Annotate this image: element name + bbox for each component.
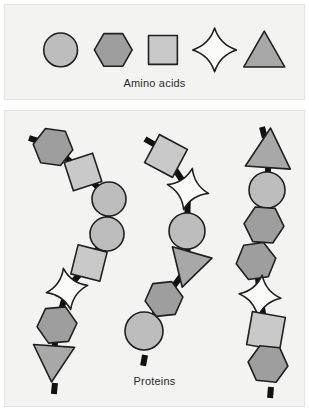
residue-circle: [90, 217, 124, 251]
circle-glyph: [125, 312, 163, 350]
hexagon-glyph: [243, 206, 285, 243]
legend-star-icon: [193, 28, 237, 72]
legend-square-icon: [149, 36, 178, 65]
hexagon-glyph: [143, 281, 184, 318]
protein-chain-middle: [125, 135, 213, 366]
legend-hexagon-icon: [94, 34, 132, 67]
figure-root: Amino acids Proteins: [0, 0, 309, 411]
legend-triangle-icon: [244, 31, 285, 67]
terminal-bond-stub: [143, 355, 145, 366]
residue-triangle: [245, 126, 293, 169]
legend-circle-icon: [44, 33, 78, 67]
residue-hexagon: [243, 206, 285, 243]
terminal-bond-stub: [270, 387, 271, 398]
circle-glyph: [169, 213, 205, 249]
hexagon-glyph: [36, 306, 79, 344]
amino-acids-caption: Amino acids: [5, 77, 304, 89]
square-glyph: [71, 245, 107, 281]
residue-square: [247, 312, 286, 351]
square-glyph: [149, 36, 178, 65]
protein-chains-shapes: [5, 111, 306, 408]
triangle-glyph: [244, 31, 285, 67]
protein-chain-left: [29, 127, 126, 394]
amino-acids-panel: Amino acids: [4, 4, 305, 100]
protein-chain-right: [234, 126, 293, 397]
residue-hexagon: [143, 281, 184, 318]
residue-circle: [249, 172, 285, 208]
hexagon-glyph: [94, 34, 132, 67]
residue-hexagon: [234, 241, 278, 281]
circle-glyph: [249, 172, 285, 208]
hexagon-glyph: [234, 241, 278, 281]
square-glyph: [247, 312, 286, 351]
triangle-glyph: [245, 126, 293, 169]
circle-glyph: [90, 217, 124, 251]
residue-circle: [125, 312, 163, 350]
amino-acid-legend-shapes: [5, 5, 304, 75]
residue-circle: [92, 182, 126, 216]
residue-hexagon: [36, 306, 79, 344]
circle-glyph: [44, 33, 78, 67]
residue-circle: [169, 213, 205, 249]
terminal-bond-stub: [145, 139, 155, 145]
proteins-caption: Proteins: [5, 375, 304, 387]
circle-glyph: [92, 182, 126, 216]
star-glyph: [193, 28, 237, 72]
residue-square: [71, 245, 107, 281]
proteins-panel: Proteins: [4, 110, 305, 407]
